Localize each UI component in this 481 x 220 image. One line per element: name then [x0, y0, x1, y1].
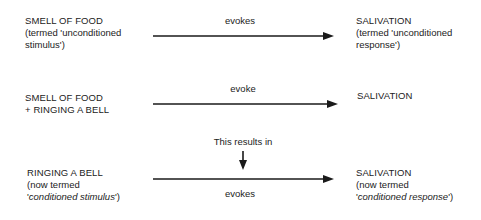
row3-stimulus-title: RINGING A BELL [27, 167, 120, 179]
row3-stimulus-quote-close: ') [115, 191, 120, 202]
transition-label: This results in [214, 136, 273, 148]
row3-response-term: conditioned response [358, 191, 448, 202]
row1-response-line2: (termed 'unconditioned [356, 27, 452, 39]
row2-response: SALIVATION [357, 90, 413, 102]
row1-stimulus-line3: stimulus') [25, 39, 121, 51]
row2-stimulus-line1: SMELL OF FOOD [25, 92, 109, 104]
row1-arrow-label: evokes [225, 15, 255, 27]
row2-arrow [153, 100, 338, 108]
row3-response: SALIVATION (now termed 'conditioned resp… [356, 167, 453, 203]
row2-arrow-label: evoke [230, 83, 255, 95]
row3-stimulus: RINGING A BELL (now termed 'conditioned … [27, 167, 120, 203]
row1-stimulus-title: SMELL OF FOOD [25, 15, 121, 27]
row3-response-title: SALIVATION [356, 167, 453, 179]
row3-response-line2: (now termed [356, 179, 453, 191]
row1-stimulus: SMELL OF FOOD (termed 'unconditioned sti… [25, 15, 121, 51]
row3-stimulus-line2: (now termed [27, 179, 120, 191]
row1-response-title: SALIVATION [356, 15, 452, 27]
row3-response-quote-close: ') [448, 191, 453, 202]
row1-stimulus-line2: (termed 'unconditioned [25, 27, 121, 39]
row2-response-title: SALIVATION [357, 90, 413, 102]
row3-stimulus-line3: 'conditioned stimulus') [27, 191, 120, 203]
row3-arrow [153, 175, 334, 183]
down-arrow [239, 151, 247, 170]
row1-response-line3: response') [356, 39, 452, 51]
row1-arrow [153, 32, 334, 40]
row1-response: SALIVATION (termed 'unconditioned respon… [356, 15, 452, 51]
row3-arrow-label: evokes [225, 188, 255, 200]
row3-response-line3: 'conditioned response') [356, 191, 453, 203]
row2-stimulus: SMELL OF FOOD + RINGING A BELL [25, 92, 109, 116]
row2-stimulus-line2: + RINGING A BELL [25, 104, 109, 116]
row3-stimulus-term: conditioned stimulus [29, 191, 115, 202]
